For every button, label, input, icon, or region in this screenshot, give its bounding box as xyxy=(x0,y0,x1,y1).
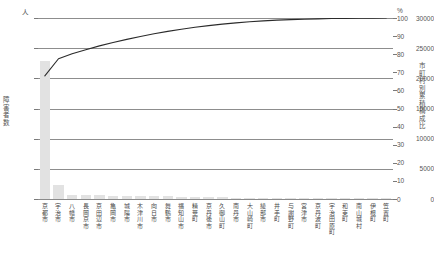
right-axis-tick-label: 50 xyxy=(397,105,419,112)
category-label: 宇治市 xyxy=(54,203,63,223)
left-axis-tick-mark xyxy=(34,199,38,200)
category-label: 京都市 xyxy=(40,203,49,223)
right-axis-label: 市町村別累積構成比 xyxy=(418,62,427,130)
right-axis-tick-mark xyxy=(393,181,397,182)
category-label: 宇治田原町 xyxy=(327,203,336,236)
right-axis-tick-mark xyxy=(393,72,397,73)
category-label: 精華町 xyxy=(191,203,200,223)
category-label: 綾部市 xyxy=(259,203,268,223)
left-axis-unit: 人 xyxy=(22,7,29,17)
category-label: 亀岡市 xyxy=(109,203,118,223)
right-axis-tick-label: 0 xyxy=(397,196,419,203)
right-axis-tick-label: 70 xyxy=(397,69,419,76)
right-axis-tick-mark xyxy=(393,109,397,110)
category-label: 南山城村 xyxy=(354,203,363,229)
category-label: 京丹後市 xyxy=(204,203,213,229)
cumulative-line-series xyxy=(38,18,393,199)
pareto-chart: 人 障害者数 % 市町村別累積構成比 300002500020000150001… xyxy=(0,0,434,268)
category-label: 久御山町 xyxy=(218,203,227,229)
category-label: 井手町 xyxy=(272,203,281,223)
right-axis-tick-label: 90 xyxy=(397,33,419,40)
left-axis-tick-mark xyxy=(34,109,38,110)
category-label: 京丹波町 xyxy=(313,203,322,229)
right-axis-unit: % xyxy=(397,7,403,14)
right-axis-tick-label: 40 xyxy=(397,123,419,130)
left-axis-tick-label: 5000 xyxy=(400,165,434,172)
right-axis-tick-mark xyxy=(393,199,397,200)
left-axis-tick-mark xyxy=(34,48,38,49)
category-label: 京田辺市 xyxy=(95,203,104,229)
plot-bottom-axis xyxy=(38,199,393,200)
left-axis-tick-mark xyxy=(34,78,38,79)
category-label: 大山崎町 xyxy=(245,203,254,229)
category-label: 和束町 xyxy=(341,203,350,223)
right-axis-tick-mark xyxy=(393,163,397,164)
right-axis-tick-label: 10 xyxy=(397,177,419,184)
right-axis-tick-label: 100 xyxy=(397,15,419,22)
category-label: 木津川市 xyxy=(136,203,145,229)
right-axis-tick-mark xyxy=(393,145,397,146)
cumulative-line-svg xyxy=(38,18,393,199)
plot-area xyxy=(38,18,393,199)
left-axis-label: 障害者数 xyxy=(2,96,11,126)
left-axis-tick-mark xyxy=(34,139,38,140)
category-label: 舞鶴市 xyxy=(163,203,172,223)
left-axis-tick-mark xyxy=(34,18,38,19)
category-label: 伊根町 xyxy=(368,203,377,223)
right-axis-tick-label: 60 xyxy=(397,87,419,94)
right-axis-tick-mark xyxy=(393,36,397,37)
category-label: 長岡京市 xyxy=(81,203,90,229)
category-label: 笠置町 xyxy=(382,203,391,223)
right-axis-tick-label: 30 xyxy=(397,141,419,148)
right-axis-tick-mark xyxy=(393,90,397,91)
right-axis-tick-mark xyxy=(393,18,397,19)
category-axis-labels: 京都市宇治市八幡市長岡京市京田辺市亀岡市城陽市木津川市向日市舞鶴市福知山市精華町… xyxy=(38,203,393,267)
category-label: 向日市 xyxy=(150,203,159,223)
right-axis-tick-mark xyxy=(393,127,397,128)
category-label: 南丹市 xyxy=(231,203,240,223)
right-axis-tick-label: 20 xyxy=(397,159,419,166)
right-axis-tick-mark xyxy=(393,54,397,55)
cumulative-line-path xyxy=(45,18,386,76)
category-label: 宮津市 xyxy=(300,203,309,223)
category-label: 福知山市 xyxy=(177,203,186,229)
right-axis-tick-label: 80 xyxy=(397,51,419,58)
left-axis-tick-mark xyxy=(34,169,38,170)
left-axis-tick-label: 20000 xyxy=(400,75,434,82)
category-label: 城陽市 xyxy=(122,203,131,223)
category-label: 八幡市 xyxy=(68,203,77,223)
category-label: 与謝野町 xyxy=(286,203,295,229)
